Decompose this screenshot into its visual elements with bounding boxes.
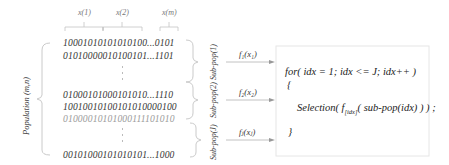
code-for-loop: for( idx = 1; idx <= J; idx++ ) — [285, 66, 416, 77]
ellipsis-dot — [122, 128, 123, 130]
subpop1-brace — [186, 40, 198, 82]
ellipsis-dot — [122, 140, 123, 142]
population-brace — [37, 43, 50, 155]
code-close-brace: } — [288, 126, 292, 137]
gene-bracket-2 — [103, 27, 142, 31]
subpopJ-brace — [190, 123, 201, 157]
code-selection-line: Selection( f[idx]( sub-pop(idx) ) ) ; — [297, 102, 436, 115]
arrow-J — [269, 138, 275, 142]
ellipsis-dot — [122, 134, 123, 136]
diagram-lines — [0, 0, 449, 165]
fitness-fn-J: fⱼ(xⱼ) — [239, 127, 255, 137]
gene-label-2: x(2) — [116, 8, 129, 17]
chromosome-row-5: 01000010101000111101010 — [63, 113, 175, 124]
chromosome-row-6: 00101000101010101...1000 — [63, 149, 175, 160]
gene-label-m: x(m) — [162, 8, 177, 17]
code-box — [276, 46, 429, 156]
chromosome-row-1: 10001010101010100...0101 — [63, 37, 175, 48]
fitness-fn-1: f₁(x₁) — [239, 49, 257, 59]
gene-label-1: x(1) — [78, 8, 91, 17]
code-selection-sub: [idx] — [345, 108, 358, 115]
ellipsis-dot — [122, 78, 123, 80]
fitness-fn-2: f₂(x₂) — [239, 87, 257, 97]
subpop-label-J: Sub-pop(J) — [209, 124, 218, 160]
population-label: Population (m,n) — [21, 77, 31, 135]
arrow-2 — [269, 98, 275, 102]
subpop-label-2: Sub-pop(2) — [209, 82, 218, 118]
chromosome-row-2: 01010000010100101...1101 — [63, 50, 174, 61]
gene-bracket-m — [160, 27, 178, 31]
arrow-1 — [269, 60, 275, 64]
subpop2-brace — [186, 82, 198, 119]
code-selection-pre: Selection( f — [297, 102, 345, 113]
chromosome-row-3: 01000101000101010...1110 — [63, 89, 173, 100]
code-selection-post: ( sub-pop(idx) ) ) ; — [358, 102, 436, 113]
gene-bracket-1 — [65, 27, 103, 31]
ellipsis-dot — [122, 66, 123, 68]
ellipsis-dot — [122, 72, 123, 74]
code-open-brace: { — [287, 79, 291, 90]
chromosome-row-4: 10010010100101010000100 — [63, 101, 177, 112]
subpop-label-1: Sub-pop(1) — [209, 44, 218, 80]
